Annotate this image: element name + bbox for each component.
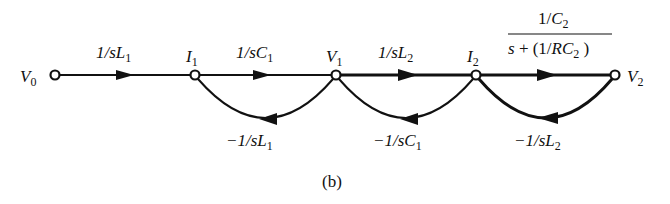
gain-numerator: 1/C2	[538, 9, 569, 31]
branch-i2-v2	[481, 69, 610, 81]
node-v1	[332, 71, 341, 80]
arrow-left-icon	[259, 113, 277, 125]
gain-v0-i1: 1/sL1	[96, 43, 131, 65]
gain-i2-v2: 1/C2 s + (1/RC2 )	[508, 9, 612, 61]
node-v0	[51, 71, 60, 80]
arrow-right-icon	[537, 69, 557, 81]
gain-i1-v0: −1/sL1	[226, 131, 273, 153]
node-i2	[472, 71, 481, 80]
gain-v2-i2: −1/sL2	[514, 131, 561, 153]
gain-i1-v1: 1/sC1	[236, 43, 273, 65]
arrow-right-icon	[116, 70, 134, 80]
figure-label: (b)	[322, 172, 342, 191]
node-v2	[611, 71, 620, 80]
branch-v0-i1	[60, 70, 190, 80]
node-label-i2: I2	[466, 47, 479, 69]
node-i1	[191, 71, 200, 80]
node-label-v2: V2	[627, 67, 643, 89]
gain-v1-i2: 1/sL2	[378, 43, 413, 65]
feedback-i1-v0	[198, 79, 333, 125]
node-label-v1: V1	[326, 47, 342, 69]
arrow-left-icon	[400, 113, 418, 125]
feedback-v2-i2	[479, 79, 612, 124]
branch-v1-i2	[341, 69, 471, 81]
arrow-right-icon	[253, 70, 271, 80]
arrow-left-icon	[538, 112, 558, 124]
signal-flow-graph: V0 I1 V1 I2 V2 1/sL1 1/sC1 1/sL2 1/C2 s …	[0, 0, 670, 204]
arrow-right-icon	[398, 69, 418, 81]
feedback-v1-i1	[339, 79, 473, 125]
gain-v1-i1: −1/sC1	[373, 131, 422, 153]
node-label-v0: V0	[20, 67, 36, 89]
node-label-i1: I1	[185, 47, 198, 69]
gain-denominator: s + (1/RC2 )	[508, 39, 589, 61]
branch-i1-v1	[200, 70, 331, 80]
